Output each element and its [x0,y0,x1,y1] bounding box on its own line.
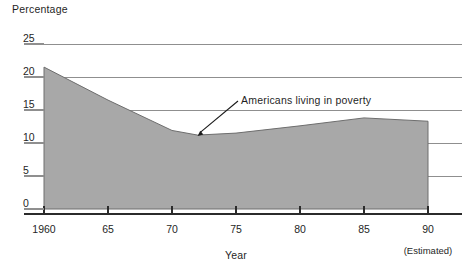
area-series-americans-living-in-poverty [44,67,428,209]
x-tick-label-90: 90 [422,223,434,235]
poverty-area-chart: Percentage 0510152025 1960657075808590 Y… [0,0,474,271]
y-tick-label-5: 5 [23,164,29,176]
annotation-label-poverty: Americans living in poverty [241,94,371,106]
y-tick-label-25: 25 [23,32,35,44]
x-tick-label-80: 80 [294,223,306,235]
y-tick-label-20: 20 [23,65,35,77]
y-tick-label-10: 10 [23,131,35,143]
x-tick-label-65: 65 [102,223,114,235]
annotation-arrow [198,101,238,136]
x-tick-label-70: 70 [166,223,178,235]
y-tick-label-15: 15 [23,98,35,110]
y-axis-title: Percentage [12,3,68,15]
x-tick-label-1960: 1960 [32,223,55,235]
y-tick-label-0: 0 [23,197,29,209]
x-tick-label-75: 75 [230,223,242,235]
x-tick-label-85: 85 [358,223,370,235]
estimated-note-label: (Estimated) [404,245,453,256]
x-axis-title: Year [0,249,473,261]
